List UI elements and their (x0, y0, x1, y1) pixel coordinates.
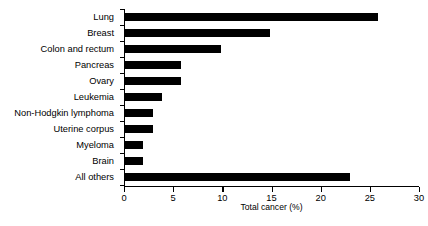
y-axis-tick (120, 57, 124, 58)
x-axis-tick (419, 187, 420, 192)
bar-row (124, 57, 419, 73)
bar (124, 125, 153, 133)
bar-row (124, 105, 419, 121)
category-axis-labels: LungBreastColon and rectumPancreasOvaryL… (0, 9, 118, 185)
x-axis-tick (173, 187, 174, 192)
x-axis-tick (222, 187, 223, 192)
y-axis-tick (120, 137, 124, 138)
category-label: Ovary (0, 73, 118, 89)
bar (124, 141, 143, 149)
x-axis-tick (124, 187, 125, 192)
x-axis-tick (321, 187, 322, 192)
category-label: Uterine corpus (0, 121, 118, 137)
bar-row (124, 137, 419, 153)
bar (124, 29, 270, 37)
cancer-share-bar-chart: LungBreastColon and rectumPancreasOvaryL… (0, 0, 428, 226)
category-label: Lung (0, 9, 118, 25)
y-axis-tick (120, 89, 124, 90)
category-label: Leukemia (0, 89, 118, 105)
category-label: Colon and rectum (0, 41, 118, 57)
bar (124, 61, 181, 69)
category-label: Pancreas (0, 57, 118, 73)
bar-row (124, 153, 419, 169)
bar-row (124, 169, 419, 185)
y-axis-tick (120, 105, 124, 106)
bar (124, 77, 181, 85)
x-axis-ticks (124, 187, 419, 192)
bar (124, 13, 378, 21)
bar (124, 109, 153, 117)
y-axis-tick (120, 73, 124, 74)
y-axis-tick (120, 41, 124, 42)
y-axis-tick (120, 25, 124, 26)
x-axis-tick (370, 187, 371, 192)
category-label: Non-Hodgkin lymphoma (0, 105, 118, 121)
y-axis-tick (120, 121, 124, 122)
category-label: All others (0, 169, 118, 185)
bar-row (124, 25, 419, 41)
bar-row (124, 41, 419, 57)
bar (124, 173, 350, 181)
category-label: Breast (0, 25, 118, 41)
y-axis-tick (120, 9, 124, 10)
x-axis-tick (272, 187, 273, 192)
category-label: Myeloma (0, 137, 118, 153)
plot-area: 051015202530 (124, 9, 419, 186)
bar-series (124, 9, 419, 185)
category-label: Brain (0, 153, 118, 169)
y-axis-tick (120, 153, 124, 154)
x-axis-title: Total cancer (%) (124, 202, 419, 212)
bar (124, 93, 162, 101)
bar (124, 45, 221, 53)
bar-row (124, 73, 419, 89)
bar-row (124, 89, 419, 105)
bar (124, 157, 143, 165)
bar-row (124, 121, 419, 137)
y-axis-tick (120, 169, 124, 170)
bar-row (124, 9, 419, 25)
